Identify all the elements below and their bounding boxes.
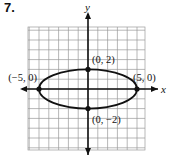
point-label: (0, 2)	[92, 54, 115, 66]
point-label: (−5, 0)	[8, 72, 37, 84]
ellipse-graph: xy (0, 2)(0, −2)(−5, 0)(5, 0)	[0, 0, 169, 155]
svg-text:x: x	[160, 83, 166, 95]
point-label: (5, 0)	[133, 72, 156, 84]
svg-text:y: y	[84, 1, 90, 13]
point-label: (0, −2)	[92, 114, 121, 126]
labeled-points: (0, 2)(0, −2)(−5, 0)(5, 0)	[8, 54, 156, 125]
